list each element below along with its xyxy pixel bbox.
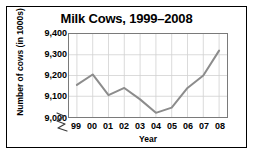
y-axis-title: Number of cows (in 1000s) bbox=[15, 3, 25, 121]
y-axis-tick-label: 9,300 bbox=[29, 50, 67, 59]
x-axis-tick-label: 08 bbox=[209, 122, 231, 131]
y-axis-tick-labels: 9,0009,1009,2009,3009,400 bbox=[29, 28, 67, 124]
chart-figure: Milk Cows, 1999–2008 Number of cows (in … bbox=[6, 6, 247, 148]
y-axis-tick-label: 9,400 bbox=[29, 29, 67, 38]
plot-area bbox=[68, 33, 228, 118]
line-chart-svg bbox=[69, 34, 227, 117]
chart-title: Milk Cows, 1999–2008 bbox=[7, 11, 246, 26]
data-line-number-of-cows bbox=[77, 51, 219, 113]
y-axis-tick-label: 9,100 bbox=[29, 92, 67, 101]
y-axis-tick-label: 9,200 bbox=[29, 71, 67, 80]
x-axis-title: Year bbox=[68, 134, 228, 144]
